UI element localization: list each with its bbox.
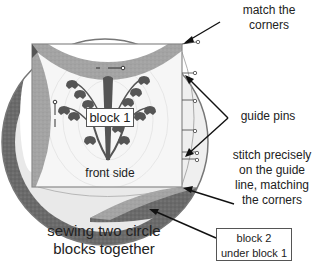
callout-line: match the [224, 3, 314, 18]
callout-line: stitch precisely [226, 148, 318, 163]
callout-line: line, matching [226, 178, 318, 193]
block-1-label-text: block 1 [89, 110, 130, 125]
callout-match-corners: match the corners [224, 3, 314, 33]
front-side-text: front side [85, 166, 134, 180]
block-1-label: block 1 [86, 108, 134, 127]
block-2-label: block 2 under block 1 [216, 228, 292, 261]
front-side-label: front side [80, 167, 140, 181]
diagram-title: sewing two circle blocks together [36, 222, 172, 258]
callout-line: on the guide [226, 163, 318, 178]
quilt-diagram: block 1 front side match the corners gui… [0, 0, 318, 267]
block-2-label-line: under block 1 [217, 246, 291, 261]
title-line: sewing two circle [36, 222, 172, 240]
block-2-label-line: block 2 [217, 231, 291, 246]
title-line: blocks together [36, 240, 172, 258]
callout-guide-pins: guide pins [228, 110, 308, 124]
callout-line: the corners [226, 193, 318, 208]
callout-line: corners [224, 18, 314, 33]
callout-line: guide pins [228, 110, 308, 124]
callout-stitch-precisely: stitch precisely on the guide line, matc… [226, 148, 318, 208]
